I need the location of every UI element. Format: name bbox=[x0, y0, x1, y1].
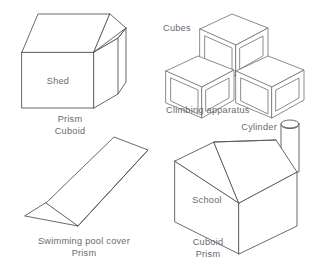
school-inner-label: School bbox=[192, 195, 222, 205]
figure-school: Cylinder School Cuboid Prism bbox=[0, 0, 313, 269]
cylinder-top-ellipse bbox=[281, 120, 299, 128]
school-caption-cuboid: Cuboid bbox=[193, 237, 224, 247]
school-caption-prism: Prism bbox=[196, 249, 221, 259]
worksheet-canvas: Shed Prism Cuboid Cubes bbox=[0, 0, 313, 269]
cylinder-label: Cylinder bbox=[241, 122, 277, 132]
